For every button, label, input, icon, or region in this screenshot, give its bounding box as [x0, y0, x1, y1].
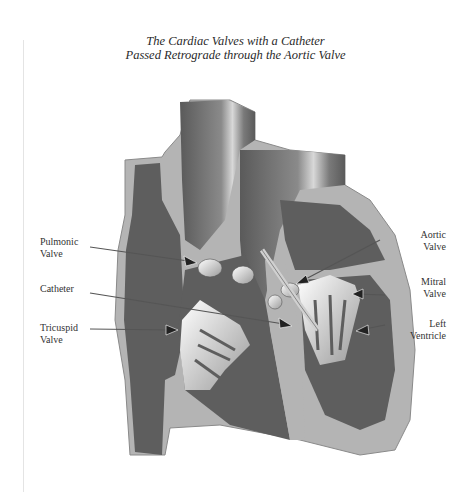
label-catheter: Catheter — [40, 283, 74, 295]
label-left-ventricle: Left Ventricle — [410, 318, 446, 341]
label-aortic-valve: Aortic Valve — [420, 229, 446, 252]
label-pulmonic-valve: Pulmonic Valve — [40, 236, 78, 259]
label-mitral-valve: Mitral Valve — [421, 276, 446, 299]
label-tricuspid-valve: Tricuspid Valve — [40, 322, 78, 345]
